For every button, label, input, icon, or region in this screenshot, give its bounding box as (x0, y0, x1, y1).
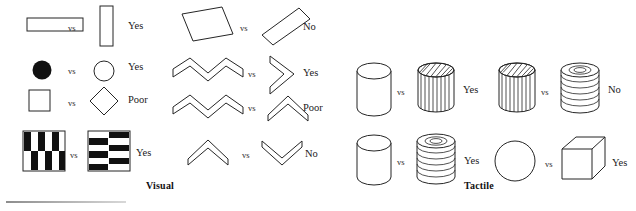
visual-row-3-left-shape (28, 89, 54, 115)
tactile-row-3-left-shape (495, 60, 539, 118)
visual-row-7-separator: vs (248, 104, 256, 113)
tactile-row-2-verdict: Yes (464, 156, 479, 167)
visual-row-5-separator: vs (240, 24, 248, 33)
tactile-row-4-verdict: Yes (612, 158, 627, 169)
visual-row-3-right-shape (88, 85, 120, 117)
tactile-row-2-right-shape (414, 131, 460, 189)
tactile-row-3-separator: vs (541, 88, 549, 97)
visual-row-4-verdict: Yes (136, 148, 151, 159)
tactile-row-1-left-shape (352, 62, 396, 118)
visual-row-4-right-shape (88, 131, 132, 173)
panel-label-tactile: Tactile (464, 180, 494, 191)
panel-label-visual: Visual (146, 180, 174, 191)
tactile-row-1-verdict: Yes (463, 85, 478, 96)
tactile-row-2-left-shape (352, 134, 396, 188)
footer-rule (6, 201, 126, 203)
visual-row-6-left-shape (172, 57, 244, 89)
visual-row-2-verdict: Yes (128, 62, 143, 73)
visual-row-8-right-shape (260, 138, 304, 170)
visual-row-1-verdict: Yes (128, 21, 143, 32)
tactile-row-4-separator: vs (545, 160, 553, 169)
visual-row-8-separator: vs (242, 151, 250, 160)
visual-row-6-right-shape (268, 54, 298, 96)
visual-row-8-verdict: No (305, 149, 318, 160)
tactile-row-2-separator: vs (397, 158, 405, 167)
tactile-row-3-verdict: No (608, 85, 621, 96)
visual-row-2-right-shape (90, 57, 118, 85)
visual-row-7-verdict: Poor (303, 103, 323, 114)
visual-row-3-separator: vs (68, 99, 76, 108)
visual-row-5-left-shape (176, 6, 238, 46)
visual-row-6-verdict: Yes (303, 68, 318, 79)
tactile-row-3-right-shape (558, 60, 604, 118)
tactile-row-1-right-shape (414, 60, 458, 118)
visual-row-1-right-shape (96, 5, 116, 47)
tactile-row-4-right-shape (558, 135, 608, 185)
visual-row-2-separator: vs (68, 67, 76, 76)
visual-row-7-left-shape (172, 94, 244, 124)
visual-row-4-left-shape (23, 131, 67, 173)
visual-row-5-verdict: No (303, 22, 316, 33)
visual-row-8-left-shape (186, 138, 230, 168)
stimulus-comparison-figure: vs Yes vs Yes vs Poor (0, 0, 636, 211)
visual-row-3-verdict: Poor (128, 95, 148, 106)
visual-row-4-separator: vs (70, 151, 78, 160)
visual-row-2-left-shape (29, 57, 55, 83)
visual-row-6-separator: vs (248, 70, 256, 79)
tactile-row-4-left-shape (492, 138, 538, 184)
tactile-row-1-separator: vs (397, 88, 405, 97)
visual-row-1-separator: vs (68, 24, 76, 33)
